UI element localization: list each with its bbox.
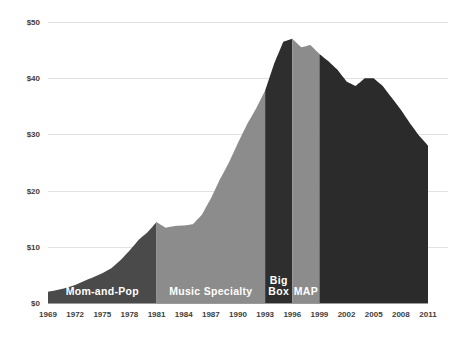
x-axis-tick-label: 1996 <box>283 310 301 319</box>
revenue-area-chart: $0$10$20$30$40$50 1969197219751978198119… <box>0 0 451 340</box>
era-band-map <box>292 39 319 303</box>
era-band-big-box <box>265 39 292 303</box>
x-axis-tick-label: 1984 <box>175 310 193 319</box>
x-axis-tick-label: 2002 <box>338 310 356 319</box>
x-axis-tick-label: 1969 <box>39 310 57 319</box>
x-axis-tick-label: 2008 <box>392 310 410 319</box>
y-axis-tick-label: $10 <box>27 243 41 252</box>
x-axis-tick-label: 1999 <box>311 310 329 319</box>
x-axis-tick-label: 1981 <box>148 310 166 319</box>
x-axis-tick-label: 1978 <box>121 310 139 319</box>
y-axis-tick-label: $50 <box>27 18 41 27</box>
era-label-text: Box <box>268 285 289 297</box>
x-axis-tick-label: 1975 <box>93 310 111 319</box>
x-axis-tick-label: 1993 <box>256 310 274 319</box>
x-axis-tick-label: 2005 <box>365 310 383 319</box>
y-axis-tick-label: $30 <box>27 130 41 139</box>
x-axis-tick-label: 1987 <box>202 310 220 319</box>
era-label-text: Music Specialty <box>169 285 252 297</box>
chart-canvas: $0$10$20$30$40$50 1969197219751978198119… <box>0 0 451 340</box>
y-axis-tick-label: $40 <box>27 74 41 83</box>
x-axis-tick-label: 2011 <box>419 310 437 319</box>
era-label-text: MAP <box>294 285 318 297</box>
x-axis-tick-label: 1990 <box>229 310 247 319</box>
y-axis-tick-label: $20 <box>27 187 41 196</box>
era-label-text: Mom-and-Pop <box>66 285 139 297</box>
x-axis-tick-label: 1972 <box>66 310 84 319</box>
x-axis-labels: 1969197219751978198119841987199019931996… <box>39 310 437 319</box>
y-axis-tick-label: $0 <box>31 299 40 308</box>
